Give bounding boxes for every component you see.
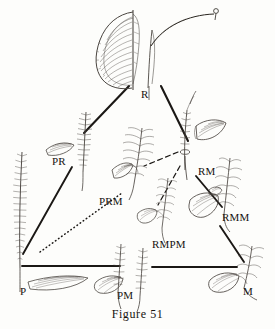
specimen-r [96, 9, 218, 100]
specimen-pr [46, 112, 92, 191]
label-pr: PR [52, 156, 66, 167]
specimen-pm [94, 244, 148, 312]
label-m: M [243, 286, 253, 297]
figure-caption: Figure 51 [0, 307, 275, 322]
specimen-m [209, 245, 264, 300]
label-prm: PRM [99, 196, 123, 207]
specimen-rmpm [137, 178, 177, 243]
specimen-prm [112, 128, 154, 200]
label-rmpm: RMPM [152, 239, 186, 250]
line-r-pr [84, 86, 129, 133]
line-r-rm [161, 86, 188, 141]
label-p: P [20, 286, 26, 297]
label-r: R [141, 89, 149, 100]
figure-51: R P M PR PRM RM RMM RMPM PM Figure 51 [0, 0, 275, 329]
line-p-pr [23, 167, 72, 254]
specimen-p [13, 152, 88, 292]
diagram-canvas [0, 0, 275, 329]
label-pm: PM [117, 290, 133, 301]
label-rmm: RMM [222, 212, 250, 223]
line-rm-prm [144, 152, 178, 166]
line-rm-rmpm [158, 166, 180, 205]
label-rm: RM [198, 166, 216, 177]
line-rmm-m [220, 226, 244, 262]
